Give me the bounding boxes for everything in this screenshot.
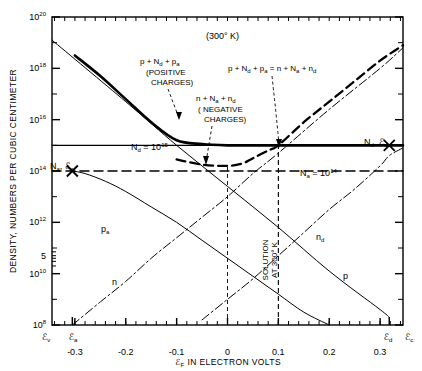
x-tick-label: 0.2 [323, 347, 336, 357]
negative-charges-line2: ( NEGATIVE [198, 105, 243, 114]
positive-charges-line2: (POSITIVE [146, 68, 186, 77]
y-tick-label-five: 5 [41, 251, 46, 261]
curve-label-n: n [112, 277, 117, 287]
x-axis-title: ℰF IN ELECTRON VOLTS [175, 357, 281, 368]
x-tick-label: 0.3 [374, 347, 387, 357]
curve-label-p: p [343, 271, 348, 281]
x-tick-label: 0.1 [272, 347, 285, 357]
solution-annotation: SOLUTION AT 300° K [261, 239, 279, 280]
positive-charges-line3: CHARGES) [151, 78, 194, 87]
y-axis-title: DENSITY, NUMBERS PER CUBIC CENTIMETER [8, 69, 18, 273]
chart-svg: 1081010101210141016101810205 -0.3-0.2-0.… [0, 0, 422, 371]
x-tick-label: -0.3 [67, 347, 83, 357]
balance-equation-text: p + Nd + pa = n + Na + nd [228, 64, 316, 74]
nd-marker-label: Nd, ℰd [364, 137, 388, 148]
x-tick-label: 0 [225, 347, 230, 357]
x-tick-label: -0.1 [169, 347, 185, 357]
figure-root: 1081010101210141016101810205 -0.3-0.2-0.… [0, 0, 422, 371]
temperature-label: (300° K) [206, 31, 239, 41]
x-tick-label: -0.2 [118, 347, 134, 357]
solution-line1: SOLUTION [261, 239, 270, 280]
negative-charges-line3: CHARGES) [204, 115, 247, 124]
solution-line2: AT 300° K [270, 241, 279, 277]
